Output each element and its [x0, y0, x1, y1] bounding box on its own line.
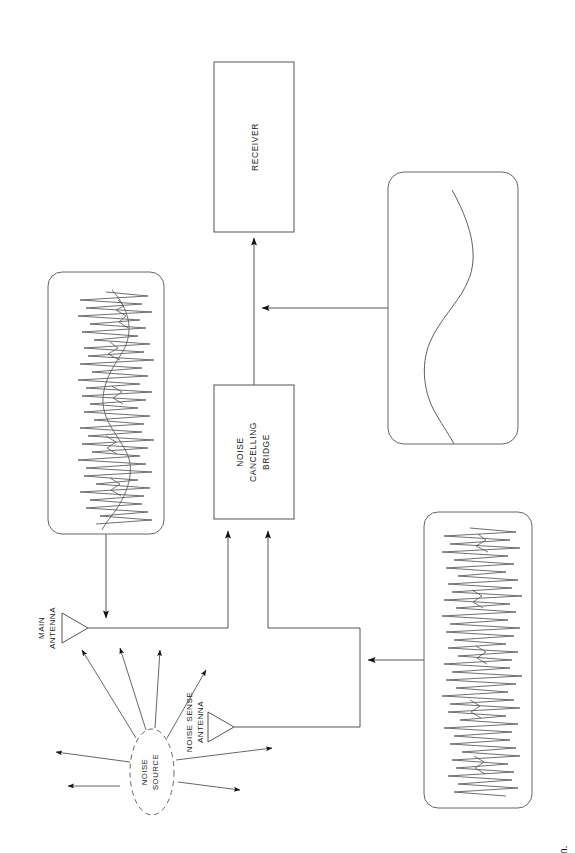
- block-diagram-canvas: RECEIVER NOISE CANCELLING BRIDGE: [0, 0, 575, 853]
- main-antenna: MAIN ANTENNA: [37, 607, 228, 649]
- noise-sense-antenna-label-line1: NOISE SENSE: [185, 692, 194, 752]
- main-antenna-label-line2: ANTENNA: [48, 607, 57, 649]
- receiver-block: RECEIVER: [214, 62, 294, 232]
- bridge-label-line1: NOISE: [235, 437, 245, 466]
- waveform-panel-main-antenna-signal: [48, 272, 164, 534]
- figure-caption-text: Noise cancelling bridge block diagram.: [557, 845, 569, 853]
- noise-cancelling-bridge-block: NOISE CANCELLING BRIDGE: [214, 385, 294, 519]
- figure-caption: Figure 17.1 Noise cancelling bridge bloc…: [558, 845, 569, 853]
- noise-sense-antenna-label-line2: ANTENNA: [196, 701, 205, 743]
- figure-root: RECEIVER NOISE CANCELLING BRIDGE: [0, 0, 575, 853]
- receiver-label: RECEIVER: [250, 123, 260, 171]
- waveform-panel-noise-sense-signal: [424, 512, 532, 808]
- noise-source-label-line1: NOISE: [140, 759, 149, 786]
- main-antenna-label-line1: MAIN: [37, 617, 46, 639]
- bridge-label-line3: BRIDGE: [261, 434, 271, 470]
- connector-noise-sense-to-bridge: [268, 531, 360, 727]
- waveform-panel-receiver-output-signal: [388, 172, 518, 444]
- noise-sense-antenna: NOISE SENSE ANTENNA: [185, 692, 360, 752]
- noise-source-label-line2: SOURCE: [151, 754, 160, 790]
- bridge-label-line2: CANCELLING: [248, 422, 258, 482]
- noise-source: NOISE SOURCE: [130, 729, 174, 815]
